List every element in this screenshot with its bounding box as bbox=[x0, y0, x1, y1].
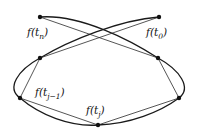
point-f-tj bbox=[96, 123, 100, 127]
curve-right-lobe bbox=[158, 58, 184, 98]
label-f-t0: f(t0) bbox=[145, 26, 167, 41]
chord-tj-right bbox=[98, 98, 179, 125]
label-f-tn: f(tn) bbox=[26, 26, 48, 41]
label-f-tj: f(tj) bbox=[85, 104, 105, 119]
label-f-tjm1: f(tj−1) bbox=[34, 86, 65, 101]
point-f-tjm1 bbox=[18, 96, 22, 100]
curve-diagram: f(tn) f(t0) f(tj−1) f(tj) bbox=[0, 0, 197, 136]
point-upper-right bbox=[156, 56, 160, 60]
point-f-tn bbox=[38, 15, 42, 19]
point-f-t0 bbox=[157, 15, 161, 19]
point-upper-left bbox=[38, 56, 42, 60]
point-right bbox=[177, 96, 181, 100]
